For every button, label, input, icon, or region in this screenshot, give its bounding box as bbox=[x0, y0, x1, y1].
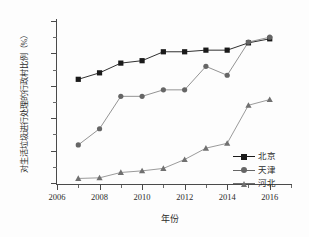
legend-marker-triangle-icon bbox=[241, 181, 247, 187]
data-point-circle bbox=[97, 126, 102, 131]
line-chart: 对生活垃圾进行处理的行政村比例（%） 020406080100 20062008… bbox=[0, 0, 309, 237]
data-point-triangle bbox=[160, 165, 166, 171]
data-point-square bbox=[225, 48, 230, 53]
data-point-circle bbox=[161, 87, 166, 92]
legend: 北京天津河北 bbox=[233, 150, 276, 191]
data-point-square bbox=[118, 61, 123, 66]
legend-item-河北[interactable]: 河北 bbox=[233, 177, 276, 191]
data-point-square bbox=[161, 49, 166, 54]
data-point-triangle bbox=[224, 140, 230, 146]
legend-swatch-square-icon bbox=[233, 152, 255, 162]
data-point-square bbox=[203, 48, 208, 53]
data-point-circle bbox=[139, 94, 144, 99]
data-point-circle bbox=[76, 142, 81, 147]
series-line bbox=[78, 39, 269, 80]
data-point-circle bbox=[267, 35, 272, 40]
data-point-circle bbox=[246, 39, 251, 44]
legend-label: 北京 bbox=[258, 150, 276, 164]
legend-item-北京[interactable]: 北京 bbox=[233, 150, 276, 164]
series-北京 bbox=[76, 36, 273, 82]
data-point-circle bbox=[203, 64, 208, 69]
legend-marker-circle-icon bbox=[241, 167, 247, 173]
data-point-circle bbox=[182, 87, 187, 92]
legend-marker-square-icon bbox=[241, 154, 247, 160]
data-point-circle bbox=[225, 73, 230, 78]
x-axis-title-text: 年份 bbox=[131, 214, 179, 224]
data-point-circle bbox=[118, 94, 123, 99]
legend-label: 河北 bbox=[258, 177, 276, 191]
data-point-square bbox=[182, 49, 187, 54]
series-line bbox=[78, 37, 269, 145]
data-point-triangle bbox=[182, 156, 188, 162]
legend-swatch-triangle-icon bbox=[233, 179, 255, 189]
x-axis-title: 年份 bbox=[0, 212, 309, 225]
legend-swatch-circle-icon bbox=[233, 165, 255, 175]
data-point-square bbox=[97, 70, 102, 75]
legend-item-天津[interactable]: 天津 bbox=[233, 164, 276, 178]
series-plot-area bbox=[0, 0, 309, 237]
data-point-square bbox=[76, 77, 81, 82]
data-point-square bbox=[139, 58, 144, 63]
legend-label: 天津 bbox=[258, 164, 276, 178]
data-point-triangle bbox=[267, 96, 273, 102]
